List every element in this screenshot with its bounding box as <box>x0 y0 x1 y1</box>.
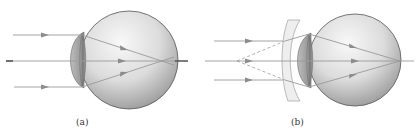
panel-label-b: (b) <box>291 117 304 127</box>
myopia-diagram <box>0 0 419 134</box>
panel-a <box>6 11 188 109</box>
virtual-ray-top <box>237 41 285 61</box>
virtual-ray-bottom <box>237 61 285 80</box>
panel-label-a: (a) <box>76 117 88 127</box>
arrow-icon <box>245 39 253 44</box>
panel-b <box>205 14 414 106</box>
crystalline-lens-b <box>307 35 313 86</box>
arrow-icon <box>41 33 49 38</box>
arrow-icon <box>245 78 253 83</box>
arrow-icon <box>245 59 253 64</box>
arrow-icon <box>41 85 49 90</box>
eyeball-a <box>80 11 178 109</box>
